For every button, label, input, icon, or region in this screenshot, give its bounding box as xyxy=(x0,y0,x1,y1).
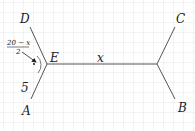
label-C: C xyxy=(176,12,185,26)
fraction-denominator: 2 xyxy=(15,48,21,56)
label-x: x xyxy=(97,51,104,65)
label-D: D xyxy=(19,12,30,26)
label-B: B xyxy=(177,101,187,115)
label-5: 5 xyxy=(21,81,29,95)
label-E: E xyxy=(49,51,59,65)
fraction-numerator: 20 − x xyxy=(6,39,30,47)
label-A: A xyxy=(21,104,31,118)
geometry-diagram: D E A C B x 5 20 − x 2 xyxy=(0,0,195,131)
angle-marker-dot xyxy=(33,63,35,65)
